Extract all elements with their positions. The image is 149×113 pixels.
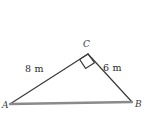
geometry-figure: A B C 8 m 6 m — [0, 0, 149, 113]
side-ab-base-line — [10, 102, 132, 104]
vertex-label-b: B — [135, 100, 142, 109]
vertex-label-a: A — [2, 101, 9, 110]
right-angle-marker-icon — [80, 54, 95, 68]
side-ac-line — [10, 54, 88, 104]
side-length-label-ac: 8 m — [25, 64, 44, 74]
triangle-diagram-svg — [0, 0, 149, 113]
side-length-label-cb: 6 m — [103, 63, 122, 73]
vertex-label-c: C — [83, 40, 90, 49]
